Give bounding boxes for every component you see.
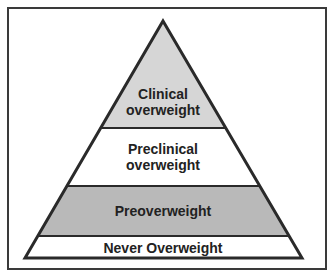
label-preoverweight: Preoverweight: [115, 203, 212, 219]
label-preclinical-line1: Preclinical: [128, 141, 198, 157]
label-never-overweight: Never Overweight: [103, 240, 222, 256]
label-clinical-line1: Clinical: [138, 86, 188, 102]
pyramid-diagram: Clinical overweight Preclinical overweig…: [0, 0, 334, 276]
label-preclinical-line2: overweight: [126, 157, 200, 173]
label-clinical-line2: overweight: [126, 102, 200, 118]
